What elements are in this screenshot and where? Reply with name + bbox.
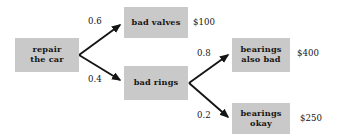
payoff-bad-valves: $100 [193, 17, 215, 27]
node-repair-the-car: repair the car [15, 38, 79, 72]
edge-label-probability-bad-valves: 0.6 [88, 16, 102, 26]
payoff-bearings-also-bad: $400 [297, 48, 319, 58]
node-bad-rings: bad rings [124, 66, 188, 100]
edge-label-probability-bearings-also-bad: 0.8 [197, 48, 211, 58]
node-bearings-okay: bearings okay [232, 103, 290, 134]
node-bearings-also-bad: bearings also bad [232, 38, 290, 72]
edge-root-to-bad-valves [79, 25, 120, 55]
edge-label-probability-bearings-okay: 0.2 [197, 110, 211, 120]
edge-label-probability-bad-rings: 0.4 [88, 74, 102, 84]
payoff-bearings-okay: $250 [300, 113, 322, 123]
node-bad-valves: bad valves [124, 7, 188, 38]
decision-tree-diagram: repair the car bad valves bad rings bear… [0, 0, 342, 140]
edge-bad-rings-to-bearings-also-bad [189, 55, 228, 83]
